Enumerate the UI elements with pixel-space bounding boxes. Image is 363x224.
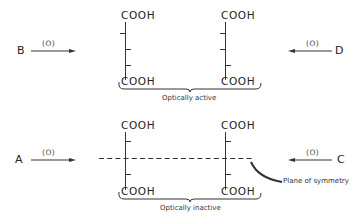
bottom-right-cooh-top: COOH: [221, 120, 255, 131]
reactant-a: A: [15, 154, 23, 165]
reagent-b: (O): [42, 40, 55, 48]
arrowhead-c: [288, 158, 295, 162]
bottom-left-cooh-bottom: COOH: [121, 186, 155, 197]
diagram-lines: [0, 0, 363, 224]
reagent-c: (O): [306, 149, 319, 157]
top-right-backbone: [220, 22, 231, 80]
top-left-cooh-top: COOH: [121, 10, 155, 21]
reactant-b: B: [17, 45, 25, 56]
bottom-left-backbone: [126, 132, 132, 190]
arrowhead-b: [69, 49, 76, 53]
caption-optically-active: Optically active: [162, 95, 216, 102]
bottom-left-cooh-top: COOH: [121, 120, 155, 131]
bottom-right-backbone: [226, 132, 232, 190]
top-right-cooh-top: COOH: [221, 10, 255, 21]
plane-of-symmetry-label: Plane of symmetry: [283, 178, 349, 185]
bottom-right-cooh-bottom: COOH: [221, 186, 255, 197]
reagent-d: (O): [306, 40, 319, 48]
reactant-d: D: [335, 45, 343, 56]
symmetry-pointer: [251, 162, 282, 182]
top-left-backbone: [120, 22, 131, 80]
caption-optically-inactive: Optically inactive: [160, 205, 221, 212]
arrowhead-a: [69, 158, 76, 162]
top-left-cooh-bottom: COOH: [121, 76, 155, 87]
top-right-cooh-bottom: COOH: [221, 76, 255, 87]
arrowhead-d: [288, 49, 295, 53]
reagent-a: (O): [42, 149, 55, 157]
reactant-c: C: [337, 154, 345, 165]
